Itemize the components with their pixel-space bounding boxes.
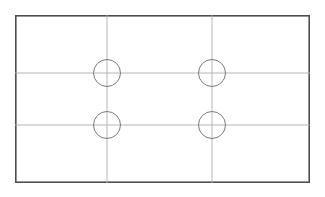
drawing-svg-root <box>0 0 325 197</box>
technical-drawing-canvas <box>0 0 325 197</box>
rectangular-plate-outline <box>16 16 309 182</box>
